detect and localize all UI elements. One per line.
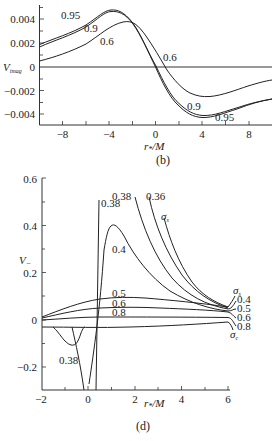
ytick-label: −0.004 [4, 108, 35, 120]
xtick-label: −4 [103, 128, 115, 140]
curve-label: 0.38 [101, 197, 121, 209]
ytick-label: 0 [30, 61, 36, 73]
curve-0.8 [42, 317, 228, 320]
curve-label: σs [161, 210, 169, 223]
ytick-label: 0.002 [10, 37, 35, 49]
curve-0.38-dip [53, 327, 85, 345]
curve-label: 0.4 [112, 243, 126, 255]
xtick-label: 2 [132, 393, 138, 405]
curve-label: 0.38 [59, 354, 79, 366]
x-axis-label-d: r*/M [144, 397, 165, 411]
figure: 0.004 0.002 0 −0.002 −0.004 Vimag −8 −4 … [0, 0, 277, 441]
ytick-label: 0 [32, 314, 38, 326]
curve-label: 0.95 [61, 9, 81, 21]
y-axis-label-d: V− [19, 254, 31, 268]
y-axis-label-b: Vimag [3, 61, 22, 74]
xtick-label: 0 [85, 393, 91, 405]
chart-b: 0.004 0.002 0 −0.002 −0.004 Vimag −8 −4 … [3, 5, 272, 167]
xtick-label: 8 [246, 128, 252, 140]
xtick-label: 6 [225, 393, 231, 405]
curve-label: 0.8 [112, 306, 126, 318]
ytick-label: −0.2 [17, 361, 37, 373]
leader-lines [228, 296, 236, 330]
curve-0.38-upper [135, 197, 228, 309]
curve-label: 0.6 [163, 51, 177, 63]
curve-sigma-c [42, 322, 228, 327]
xtick-label: 4 [199, 128, 205, 140]
y-ticks-d [42, 202, 46, 367]
ytick-label: 0.6 [23, 173, 37, 185]
x-ticks-d [65, 386, 228, 390]
curve-label: 0.8 [237, 320, 251, 332]
caption-b: (b) [156, 153, 170, 167]
ytick-label: 0.004 [10, 13, 35, 25]
ytick-label: 0.2 [23, 267, 37, 279]
ytick-label: −0.002 [4, 85, 35, 97]
curve-label: 0.9 [187, 100, 201, 112]
curve-0.95 [40, 10, 273, 118]
xtick-label: −2 [35, 393, 47, 405]
ytick-label: 0.4 [23, 220, 37, 232]
curve-label: 0.36 [146, 190, 166, 202]
curve-0.38-vertical [96, 200, 99, 390]
curve-label: 0.95 [215, 111, 235, 123]
curve-label: 0.9 [84, 22, 98, 34]
xtick-label: 0 [153, 128, 159, 140]
xtick-label: 4 [179, 393, 185, 405]
xtick-label: −8 [57, 128, 69, 140]
curve-0.6 [42, 307, 228, 318]
x-axis-label-b: r*/M [144, 140, 165, 154]
chart-d: 0.6 0.4 0.2 0 −0.2 V− −2 0 2 4 6 r*/M (d… [17, 173, 251, 433]
caption-d: (d) [136, 419, 150, 433]
curve-0.9 [40, 11, 273, 115]
curve-label: 0.6 [100, 35, 114, 47]
